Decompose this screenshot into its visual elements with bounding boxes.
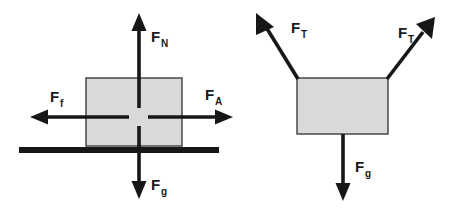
tension-left-arrow-head — [256, 13, 274, 35]
force-subscript-tension-right: T — [408, 34, 414, 45]
force-subscript-gravity-left: g — [161, 186, 167, 197]
ground-surface-line — [19, 147, 219, 153]
force-label-gravity-right: F — [355, 158, 364, 175]
force-subscript-applied: A — [215, 96, 222, 107]
normal-arrow-head — [132, 13, 147, 31]
force-label-friction: F — [50, 88, 59, 105]
applied-arrow-head — [215, 110, 233, 125]
gravity-right-arrow-head — [336, 183, 351, 201]
friction-arrow-head — [30, 110, 48, 125]
force-subscript-friction: f — [60, 98, 64, 109]
force-label-normal: F — [151, 28, 160, 45]
force-label-gravity-left: F — [151, 176, 160, 193]
force-vector-tension-right: F T — [387, 17, 435, 79]
force-subscript-tension-left: T — [301, 29, 307, 40]
block-shape — [86, 78, 182, 146]
physics-diagram-canvas: F N F f F A F g — [0, 0, 452, 220]
force-label-applied: F — [205, 86, 214, 103]
block-shape — [297, 78, 388, 134]
free-body-diagrams-svg: F N F f F A F g — [0, 0, 452, 220]
force-subscript-normal: N — [161, 38, 168, 49]
force-label-tension-right: F — [398, 24, 407, 41]
diagram-block-on-surface: F N F f F A F g — [19, 13, 233, 199]
force-subscript-gravity-right: g — [365, 168, 371, 179]
gravity-arrow-head — [132, 181, 147, 199]
force-vector-tension-left: F T — [256, 13, 307, 79]
diagram-hanging-block: F T F T F g — [256, 13, 435, 201]
force-vector-gravity-right: F g — [336, 134, 372, 201]
force-label-tension-left: F — [291, 19, 300, 36]
